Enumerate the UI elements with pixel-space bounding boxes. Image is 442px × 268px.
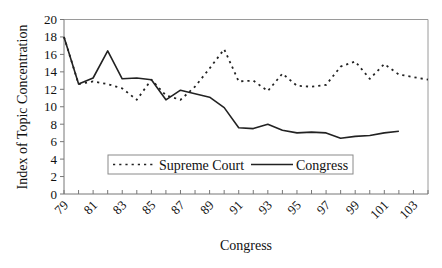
x-tick-label: 99 — [343, 198, 363, 218]
x-tick-label: 81 — [80, 198, 100, 218]
y-tick-label: 8 — [51, 117, 58, 132]
series-layer — [64, 37, 428, 138]
y-tick-label: 6 — [51, 134, 58, 149]
y-tick-label: 10 — [44, 99, 57, 114]
x-tick-label: 85 — [139, 198, 159, 218]
x-tick-label: 91 — [226, 198, 246, 218]
y-tick-label: 14 — [44, 64, 58, 79]
y-tick-label: 20 — [44, 12, 57, 27]
x-tick-label: 95 — [284, 198, 304, 218]
y-axis-ticks: 02468101214161820 — [44, 12, 64, 202]
y-tick-label: 12 — [44, 82, 57, 97]
legend-label-supreme-court: Supreme Court — [159, 158, 244, 173]
series-line-supreme-court — [64, 37, 428, 100]
x-tick-label: 87 — [168, 197, 188, 217]
y-axis-title: Index of Topic Concentration — [15, 25, 30, 190]
x-tick-label: 83 — [110, 198, 130, 218]
x-axis-ticks: 7981838587899193959799101103 — [51, 190, 428, 222]
y-tick-label: 0 — [51, 187, 58, 202]
series-line-congress — [64, 37, 399, 138]
x-axis-title: Congress — [220, 238, 272, 253]
line-chart: 02468101214161820 7981838587899193959799… — [0, 0, 442, 268]
x-tick-label: 93 — [255, 198, 275, 218]
x-tick-label: 101 — [367, 198, 391, 222]
x-tick-label: 97 — [313, 197, 333, 217]
y-tick-label: 16 — [44, 47, 58, 62]
x-tick-label: 89 — [197, 198, 217, 218]
legend: Supreme Court Congress — [108, 155, 353, 174]
legend-label-congress: Congress — [296, 158, 348, 173]
y-tick-label: 2 — [51, 169, 58, 184]
y-tick-label: 4 — [51, 152, 58, 167]
y-tick-label: 18 — [44, 29, 57, 44]
x-tick-label: 103 — [396, 198, 420, 222]
